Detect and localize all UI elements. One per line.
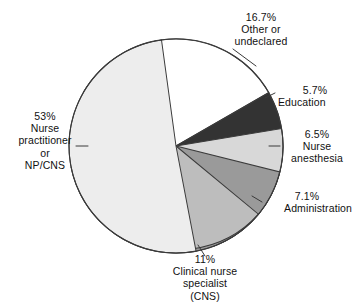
slice-label-clinical-nurse-specialist: 11% Clinical nurse specialist (CNS) <box>146 253 264 302</box>
slice-label-np-line2: Nurse <box>4 122 86 134</box>
slice-label-np-percent: 53% <box>4 110 86 122</box>
slice-label-np-line5: NP/CNS <box>4 159 86 171</box>
slice-label-administration: 7.1% Administration <box>262 190 352 214</box>
slice-label-nurse-practitioner: 53% Nurse practitioner or NP/CNS <box>4 110 86 171</box>
slice-label-education-percent: 5.7% <box>278 84 352 96</box>
slice-label-cns-percent: 11% <box>146 253 264 265</box>
slice-label-cns-line3: specialist <box>146 277 264 289</box>
slice-label-np-line3: practitioner <box>4 134 86 146</box>
slice-label-anesthesia-line3: anesthesia <box>281 152 353 164</box>
slice-label-other-line3: undeclared <box>213 35 309 47</box>
slice-label-other-line2: Other or <box>213 23 309 35</box>
slice-label-administration-percent: 7.1% <box>262 190 352 202</box>
slice-label-other-percent: 16.7% <box>213 11 309 23</box>
slice-label-other-or-undeclared: 16.7% Other or undeclared <box>213 11 309 48</box>
slice-label-anesthesia-percent: 6.5% <box>281 128 353 140</box>
slice-label-nurse-anesthesia: 6.5% Nurse anesthesia <box>281 128 353 165</box>
slice-label-education-line2: Education <box>278 96 352 108</box>
slice-label-administration-line2: Administration <box>262 202 352 214</box>
slice-label-cns-line4: (CNS) <box>146 290 264 302</box>
slice-label-education: 5.7% Education <box>278 84 352 108</box>
slice-label-cns-line2: Clinical nurse <box>146 265 264 277</box>
slice-label-np-line4: or <box>4 147 86 159</box>
pie-chart-figure: 16.7% Other or undeclared 5.7% Education… <box>0 0 354 307</box>
slice-label-anesthesia-line2: Nurse <box>281 140 353 152</box>
